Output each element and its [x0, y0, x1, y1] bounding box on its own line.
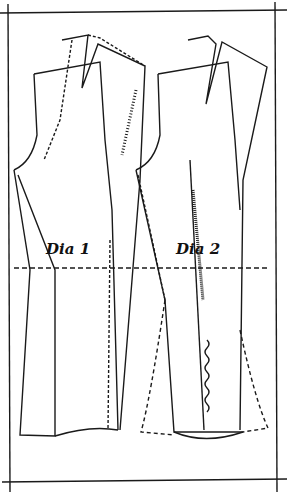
dia1-pattern [14, 35, 145, 436]
dia2-pattern [136, 36, 268, 439]
frame [0, 2, 287, 492]
dia1-label: Dia 1 [46, 240, 90, 258]
dia2-label: Dia 2 [176, 240, 220, 258]
pattern-diagram [0, 0, 287, 492]
